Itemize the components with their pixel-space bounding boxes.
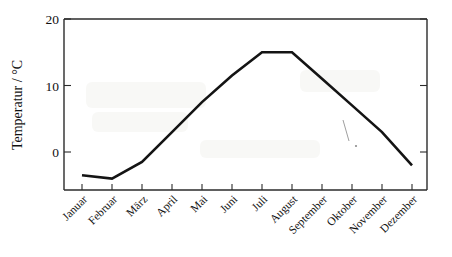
x-axis-ticks bbox=[82, 184, 412, 190]
x-tick-label-juni: Juni bbox=[217, 193, 239, 215]
chart-canvas: 20 10 0 Temperatur / °C Januar Februar M… bbox=[0, 0, 452, 257]
y-tick-labels: 20 10 0 bbox=[46, 12, 60, 160]
x-tick-labels: Januar Februar März April Mai Juni Juli … bbox=[60, 192, 420, 237]
scan-artifacts bbox=[86, 70, 380, 158]
y-tick-label-0: 0 bbox=[52, 145, 59, 160]
x-tick-label-juli: Juli bbox=[249, 193, 269, 213]
temperature-chart: 20 10 0 Temperatur / °C Januar Februar M… bbox=[0, 0, 452, 257]
x-tick-label-april: April bbox=[154, 193, 180, 219]
y-tick-label-20: 20 bbox=[46, 12, 60, 27]
y-axis-label: Temperatur / °C bbox=[10, 60, 25, 150]
x-tick-label-mai: Mai bbox=[188, 193, 210, 215]
x-tick-label-maerz: März bbox=[124, 193, 150, 219]
y-tick-label-10: 10 bbox=[46, 79, 60, 94]
x-tick-label-februar: Februar bbox=[86, 193, 120, 227]
